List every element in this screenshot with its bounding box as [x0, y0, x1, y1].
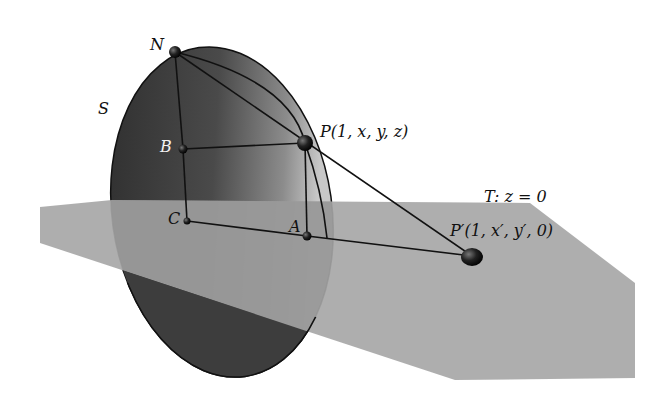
- point-b: [179, 145, 188, 154]
- label-a: A: [287, 217, 301, 236]
- point-p: [297, 135, 313, 151]
- point-a: [303, 232, 312, 241]
- point-pprime: [461, 248, 483, 266]
- label-p: P(1, x, y, z): [319, 122, 408, 141]
- label-c: C: [168, 209, 180, 228]
- point-n: [169, 46, 181, 58]
- stereographic-projection-diagram: N S B C A P(1, x, y, z) T: z = 0 P′(1, x…: [0, 0, 670, 400]
- label-b: B: [159, 137, 172, 156]
- label-n: N: [149, 35, 165, 54]
- label-s: S: [98, 99, 109, 118]
- point-c: [184, 218, 191, 225]
- label-pprime: P′(1, x′, y′, 0): [449, 221, 553, 240]
- label-plane-t: T: z = 0: [484, 187, 547, 206]
